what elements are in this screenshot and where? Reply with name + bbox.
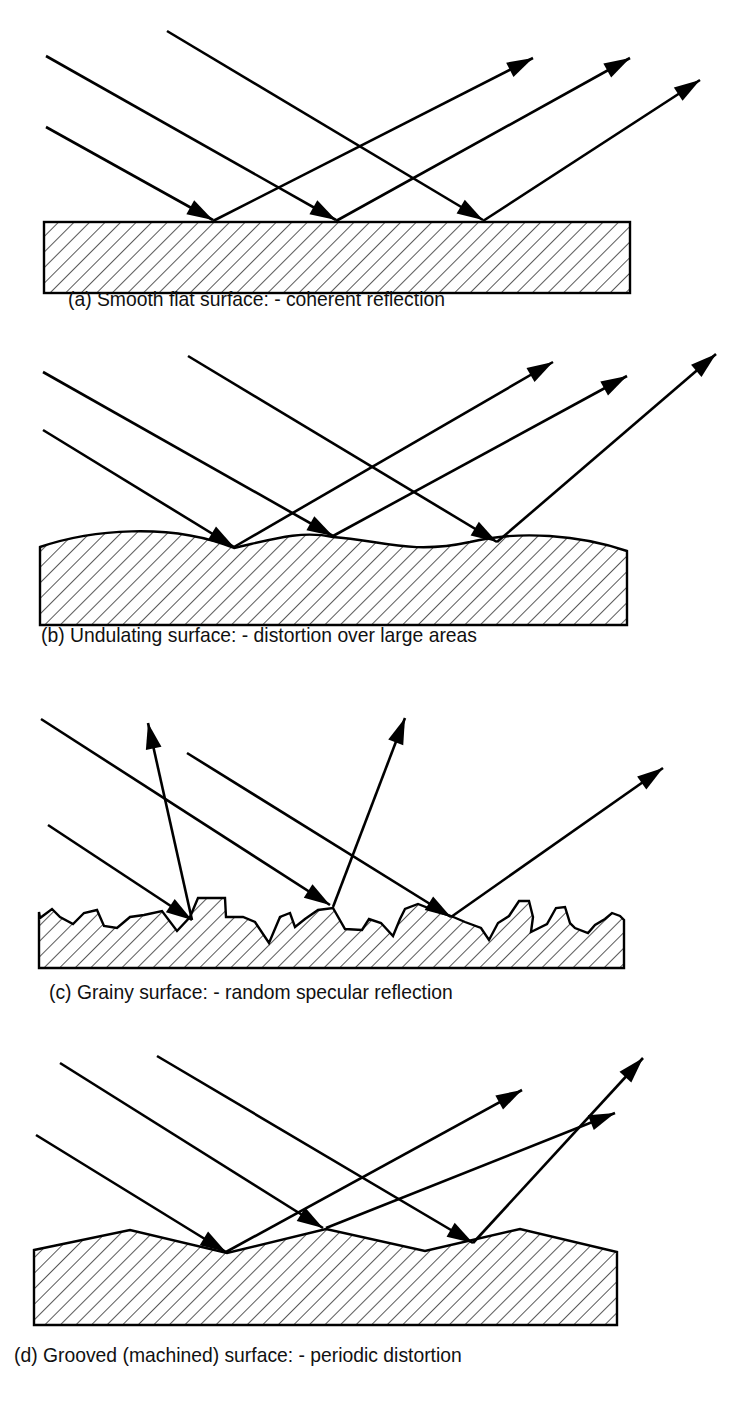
surface-block — [44, 222, 630, 293]
arrowhead-icon — [388, 718, 405, 745]
arrowhead-icon — [674, 80, 700, 101]
arrowhead-icon — [146, 723, 162, 750]
reflected-rays — [234, 354, 716, 547]
arrowhead-icon — [495, 1090, 522, 1110]
arrowhead-icon — [457, 200, 483, 220]
panel-a-smooth-surface — [44, 31, 700, 293]
arrowhead-icon — [306, 516, 333, 536]
arrowhead-icon — [526, 362, 553, 382]
arrowhead-icon — [600, 376, 627, 395]
panel-b-undulating-surface — [40, 354, 716, 625]
arrowhead-icon — [506, 58, 533, 77]
reflected-rays — [213, 58, 700, 221]
surface-block — [40, 531, 627, 625]
caption-d: (d) Grooved (machined) surface: - period… — [14, 1343, 462, 1367]
arrowhead-icon — [304, 884, 330, 905]
reflected-rays — [226, 1058, 643, 1252]
arrowhead-icon — [588, 1113, 615, 1130]
arrowhead-icon — [309, 200, 336, 220]
incident-rays — [41, 719, 451, 920]
panel-d-grooved-surface — [34, 1056, 643, 1325]
panel-c-grainy-surface — [39, 718, 663, 968]
surface-block — [34, 1229, 617, 1325]
arrowhead-icon — [603, 58, 630, 78]
incident-rays — [43, 356, 497, 547]
arrowhead-icon — [637, 768, 663, 789]
arrowhead-icon — [186, 200, 213, 220]
surface-block — [39, 898, 624, 968]
arrowhead-icon — [447, 1223, 473, 1243]
incident-rays — [46, 31, 483, 220]
caption-c: (c) Grainy surface: - random specular re… — [49, 980, 453, 1004]
caption-b: (b) Undulating surface: - distortion ove… — [41, 623, 477, 647]
reflection-diagram — [0, 0, 735, 1406]
caption-a: (a) Smooth flat surface: - coherent refl… — [68, 287, 445, 311]
